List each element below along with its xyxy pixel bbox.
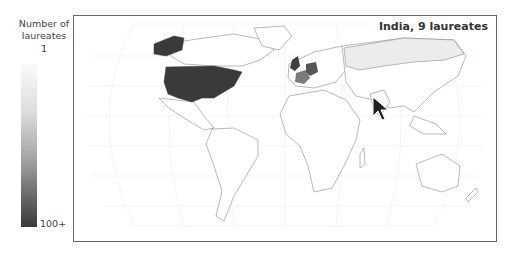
legend-gradient-bar (21, 64, 37, 227)
legend-title-line1: Number of (16, 18, 72, 30)
southeast-asia (410, 116, 446, 134)
country-madagascar (360, 148, 365, 168)
arrow-cursor-icon (372, 96, 390, 122)
hover-tooltip-label: India, 9 laureates (379, 20, 488, 33)
continent-africa (280, 90, 360, 192)
continent-south-america (206, 128, 258, 221)
country-new-zealand (466, 188, 478, 202)
country-united-states (164, 66, 242, 102)
continent-australia (416, 154, 460, 192)
country-mexico (159, 98, 214, 130)
legend-max-label: 100+ (40, 218, 66, 229)
legend-title-line2: laureates (16, 30, 72, 42)
map-canvas[interactable] (74, 16, 497, 242)
color-legend: Number of laureates 1 100+ (0, 0, 72, 256)
legend-min-label: 1 (16, 43, 72, 54)
legend-title: Number of laureates (16, 18, 72, 42)
world-map[interactable]: India, 9 laureates (73, 15, 497, 242)
